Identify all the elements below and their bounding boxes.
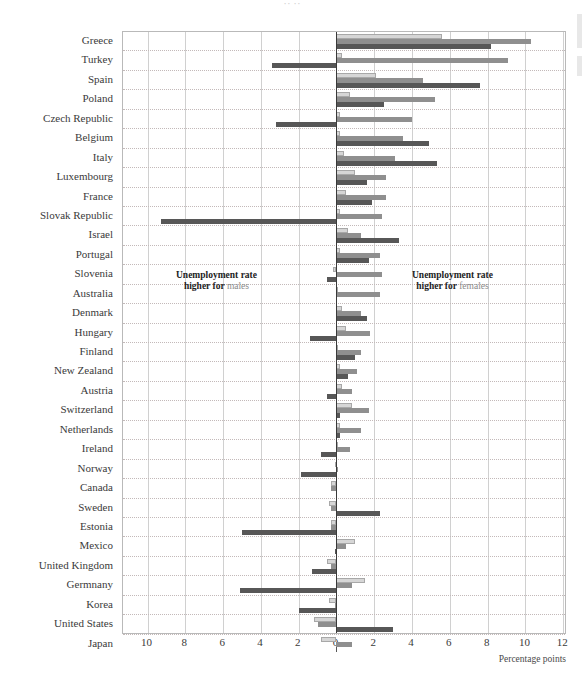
bar-group — [123, 460, 565, 478]
country-label: Italy — [0, 148, 120, 167]
bar-group — [123, 188, 565, 206]
bar-row — [123, 343, 565, 362]
bar-group — [123, 557, 565, 575]
country-label: Poland — [0, 89, 120, 108]
bar — [327, 394, 336, 399]
bar — [336, 447, 349, 452]
bar — [336, 583, 351, 588]
bar-row — [123, 499, 565, 518]
bar — [336, 544, 345, 549]
country-label: Austria — [0, 381, 120, 400]
annotation-males-soft: males — [227, 281, 249, 291]
chart-plot-area — [122, 31, 566, 634]
bar-row — [123, 537, 565, 556]
country-label: Slovak Republic — [0, 206, 120, 225]
bar — [327, 277, 336, 282]
bar — [336, 44, 491, 49]
bar-group — [123, 596, 565, 614]
bar-group — [123, 440, 565, 458]
country-label: Turkey — [0, 50, 120, 69]
bar-row — [123, 324, 565, 343]
bar — [336, 83, 480, 88]
bar-row — [123, 557, 565, 576]
country-label: Sweden — [0, 498, 120, 517]
country-label: Australia — [0, 284, 120, 303]
bar-group — [123, 635, 565, 654]
country-label: Netherlands — [0, 420, 120, 439]
bar — [161, 219, 337, 224]
country-label: United States — [0, 614, 120, 633]
cropped-title: ·· ·· — [0, 0, 584, 14]
annotation-males-line1: Unemployment rate — [176, 270, 257, 281]
country-label: Belgium — [0, 128, 120, 147]
bar-row — [123, 596, 565, 615]
bar-group — [123, 90, 565, 108]
bar-row — [123, 518, 565, 537]
country-label: Korea — [0, 595, 120, 614]
bar-group — [123, 576, 565, 594]
bar-row — [123, 421, 565, 440]
bar-group — [123, 518, 565, 536]
bar-row — [123, 226, 565, 245]
country-label: Norway — [0, 459, 120, 478]
annotation-males: Unemployment rate higher for males — [176, 270, 257, 292]
country-label: Denmark — [0, 303, 120, 322]
bar — [336, 58, 508, 63]
bar — [272, 63, 336, 68]
country-label: Estonia — [0, 517, 120, 536]
bar — [336, 389, 351, 394]
annotation-females-soft: females — [459, 281, 489, 291]
bar-row — [123, 460, 565, 479]
country-label: United Kingdom — [0, 556, 120, 575]
bar-group — [123, 401, 565, 419]
country-label: Ireland — [0, 439, 120, 458]
bar-row — [123, 207, 565, 226]
bar-row — [123, 615, 565, 634]
annotation-females-bold: higher for — [416, 281, 459, 291]
bar-row — [123, 149, 565, 168]
bar-group — [123, 32, 565, 50]
bar-group — [123, 207, 565, 225]
bar — [310, 336, 336, 341]
bar-row — [123, 362, 565, 381]
country-label: Czech Republic — [0, 109, 120, 128]
bar — [321, 637, 336, 642]
bar-group — [123, 362, 565, 380]
bar-group — [123, 129, 565, 147]
bar-row — [123, 304, 565, 323]
annotation-males-line2: higher for males — [176, 281, 257, 292]
bar-row — [123, 479, 565, 498]
country-label: Spain — [0, 70, 120, 89]
bar — [299, 608, 337, 613]
country-label: Israel — [0, 225, 120, 244]
bar — [312, 569, 337, 574]
bar-group — [123, 51, 565, 69]
x-axis-unit-label: Percentage points — [122, 654, 566, 664]
bar-group — [123, 226, 565, 244]
bar-row — [123, 71, 565, 90]
bar — [336, 331, 370, 336]
bar-group — [123, 421, 565, 439]
bar-row — [123, 110, 565, 129]
bar-group — [123, 343, 565, 361]
country-label: Switzerland — [0, 400, 120, 419]
annotation-females: Unemployment rate higher for females — [412, 270, 493, 292]
annotation-females-line1: Unemployment rate — [412, 270, 493, 281]
country-label: Luxembourg — [0, 167, 120, 186]
bar-row — [123, 382, 565, 401]
bar-row — [123, 188, 565, 207]
country-label: Greece — [0, 31, 120, 50]
bar-group — [123, 479, 565, 497]
bar-group — [123, 499, 565, 517]
bar-group — [123, 537, 565, 555]
bar — [336, 355, 355, 360]
bar — [336, 180, 366, 185]
bar — [336, 214, 381, 219]
bar — [301, 472, 337, 477]
annotation-males-bold: higher for — [184, 281, 227, 291]
bar-group — [123, 149, 565, 167]
country-label: France — [0, 187, 120, 206]
bar-group — [123, 304, 565, 322]
country-label-column: GreeceTurkeySpainPolandCzech RepublicBel… — [0, 31, 120, 634]
bar — [240, 588, 336, 593]
